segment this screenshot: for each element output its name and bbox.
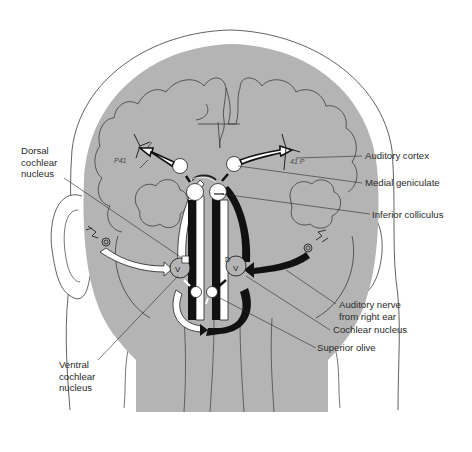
label-text: Auditory cortex [365, 150, 429, 161]
ventral-letter-right: V [233, 264, 239, 273]
label-superior-olive: Superior olive [317, 342, 376, 354]
label-line: Dorsal [21, 145, 57, 157]
label-line: Auditory nerve [339, 299, 401, 311]
label-line: from right ear [339, 311, 401, 323]
left-cortex-annotation: P41 [114, 157, 127, 164]
label-line: nucleus [21, 168, 57, 180]
label-inferior-colliculus: Inferior colliculus [372, 209, 443, 221]
label-medial-geniculate: Medial geniculate [365, 177, 440, 189]
label-line: cochlear [21, 157, 57, 169]
label-auditory-nerve: Auditory nerve from right ear [339, 299, 401, 322]
brain-region [84, 44, 379, 412]
label-text: Superior olive [317, 342, 376, 353]
label-text: Inferior colliculus [372, 209, 443, 220]
ventral-letter-left: V [175, 265, 181, 274]
label-cochlear-nucleus: Cochlear nucleus [333, 324, 407, 336]
label-auditory-cortex: Auditory cortex [365, 150, 429, 162]
label-line: nucleus [59, 382, 95, 394]
right-cortex-annotation: 41 P [290, 158, 305, 165]
dorsal-letter-right: D [225, 256, 230, 263]
label-line: Ventral [59, 359, 95, 371]
label-text: Cochlear nucleus [333, 324, 407, 335]
label-line: cochlear [59, 371, 95, 383]
label-ventral-cochlear-nucleus: Ventral cochlear nucleus [59, 359, 95, 394]
label-dorsal-cochlear-nucleus: Dorsal cochlear nucleus [21, 145, 57, 180]
label-text: Medial geniculate [365, 177, 440, 188]
